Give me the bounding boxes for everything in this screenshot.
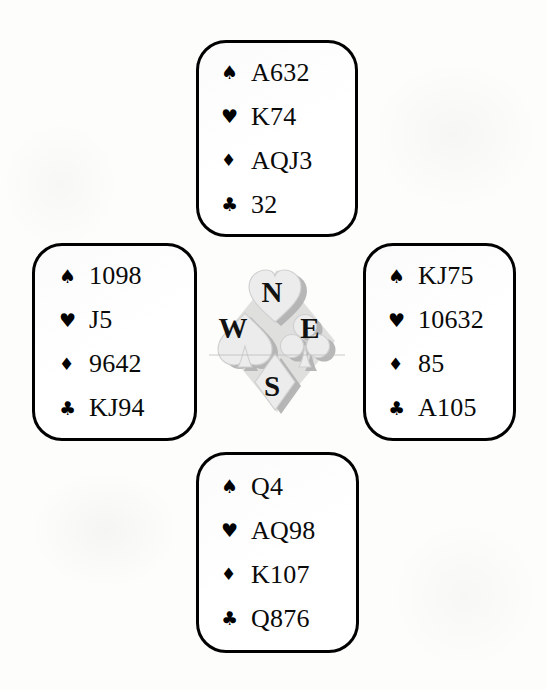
suit-row-spades: ♠ Q4 — [199, 465, 356, 509]
club-icon: ♣ — [221, 195, 251, 214]
scan-artifact — [370, 60, 540, 210]
suit-row-hearts: ♥ J5 — [35, 298, 194, 342]
east-hearts: 10632 — [418, 307, 484, 333]
club-icon: ♣ — [59, 399, 89, 418]
compass-label-east: E — [288, 314, 332, 343]
west-diamonds: 9642 — [89, 351, 142, 377]
heart-icon: ♥ — [221, 107, 251, 126]
scan-artifact — [0, 120, 120, 250]
west-spades: 1098 — [89, 263, 142, 289]
compass-rose: N W E S — [203, 252, 351, 430]
suit-row-hearts: ♥ AQ98 — [199, 509, 356, 553]
south-diamonds: K107 — [251, 562, 310, 588]
suit-row-spades: ♠ KJ75 — [366, 254, 513, 298]
suit-row-clubs: ♣ A105 — [366, 386, 513, 430]
compass-label-south: S — [250, 372, 294, 401]
north-hearts: K74 — [251, 104, 296, 130]
diamond-icon: ♦ — [221, 152, 251, 169]
hand-box-south: ♠ Q4 ♥ AQ98 ♦ K107 ♣ Q876 — [196, 452, 359, 653]
east-spades: KJ75 — [418, 263, 474, 289]
heart-icon: ♥ — [59, 311, 89, 330]
compass-label-north: N — [250, 278, 294, 307]
spade-icon: ♠ — [221, 63, 251, 82]
hand-box-east: ♠ KJ75 ♥ 10632 ♦ 85 ♣ A105 — [363, 243, 516, 441]
suit-row-clubs: ♣ Q876 — [199, 597, 356, 641]
hand-box-west: ♠ 1098 ♥ J5 ♦ 9642 ♣ KJ94 — [32, 243, 197, 441]
east-diamonds: 85 — [418, 351, 444, 377]
north-clubs: 32 — [251, 192, 277, 218]
suit-row-spades: ♠ A632 — [199, 51, 355, 95]
spade-icon: ♠ — [221, 477, 251, 496]
diamond-icon: ♦ — [59, 356, 89, 373]
north-spades: A632 — [251, 60, 310, 86]
spade-icon: ♠ — [59, 267, 89, 286]
south-spades: Q4 — [251, 474, 283, 500]
suit-row-diamonds: ♦ AQJ3 — [199, 139, 355, 183]
club-icon: ♣ — [221, 609, 251, 628]
diamond-icon: ♦ — [221, 566, 251, 583]
suit-row-hearts: ♥ 10632 — [366, 298, 513, 342]
south-hearts: AQ98 — [251, 518, 315, 544]
south-clubs: Q876 — [251, 606, 310, 632]
bridge-deal-diagram: ♠ A632 ♥ K74 ♦ AQJ3 ♣ 32 ♠ 1098 ♥ J5 ♦ 9… — [0, 0, 546, 690]
west-hearts: J5 — [89, 307, 113, 333]
east-clubs: A105 — [418, 395, 477, 421]
spade-icon: ♠ — [388, 267, 418, 286]
heart-icon: ♥ — [221, 521, 251, 540]
suit-row-diamonds: ♦ 9642 — [35, 342, 194, 386]
suit-row-hearts: ♥ K74 — [199, 95, 355, 139]
suit-row-diamonds: ♦ 85 — [366, 342, 513, 386]
suit-row-spades: ♠ 1098 — [35, 254, 194, 298]
scan-artifact — [30, 470, 180, 590]
suit-row-clubs: ♣ KJ94 — [35, 386, 194, 430]
compass-label-west: W — [211, 314, 255, 343]
club-icon: ♣ — [388, 399, 418, 418]
scan-artifact — [390, 520, 540, 670]
north-diamonds: AQJ3 — [251, 148, 312, 174]
suit-row-clubs: ♣ 32 — [199, 183, 355, 227]
heart-icon: ♥ — [388, 311, 418, 330]
suit-row-diamonds: ♦ K107 — [199, 553, 356, 597]
west-clubs: KJ94 — [89, 395, 145, 421]
hand-box-north: ♠ A632 ♥ K74 ♦ AQJ3 ♣ 32 — [196, 40, 358, 237]
diamond-icon: ♦ — [388, 356, 418, 373]
